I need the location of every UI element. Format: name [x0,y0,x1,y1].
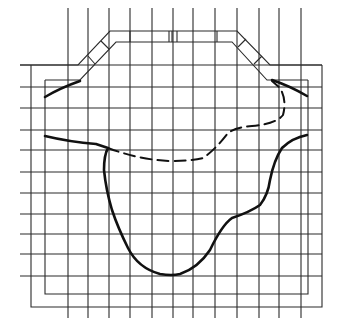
upper-left-arc [45,81,80,97]
dashed-curve [108,81,284,161]
grid-lines [20,8,322,318]
upper-right-arc [272,80,307,96]
outline-ticks [88,0,340,64]
top-outline-outer [20,31,322,65]
outer-frame [31,65,322,307]
top-outline-inner [45,42,308,80]
grid-diagram [0,0,344,334]
